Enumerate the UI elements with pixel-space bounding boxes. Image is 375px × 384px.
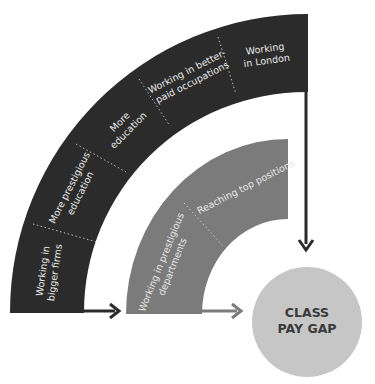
class-pay-gap-diagram: CLASS PAY GAP Working in bigger firms Mo… xyxy=(0,0,375,384)
right-arrow-dark xyxy=(83,304,119,318)
circle-label-line2: PAY GAP xyxy=(278,321,337,336)
right-arrow-gray xyxy=(200,304,241,318)
down-arrow xyxy=(299,92,313,250)
circle-label-line1: CLASS xyxy=(285,305,329,320)
